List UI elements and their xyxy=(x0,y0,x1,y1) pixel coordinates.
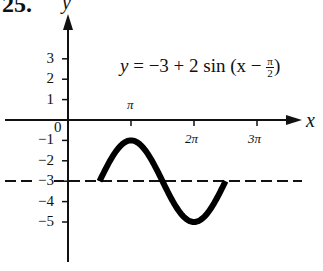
y-tick-label: 3 xyxy=(24,51,54,66)
fraction-denominator: 2 xyxy=(266,68,274,79)
equation-equals: = xyxy=(133,55,148,76)
y-axis-arrow-icon xyxy=(63,14,73,30)
y-tick-label: −2 xyxy=(24,153,54,168)
x-axis-label: x xyxy=(306,110,315,130)
x-tick-label: 3π xyxy=(248,132,261,145)
origin-label: 0 xyxy=(54,120,62,135)
y-tick-label: −5 xyxy=(24,214,54,229)
x-axis-arrow-icon xyxy=(286,115,302,125)
y-tick-label: −1 xyxy=(24,132,54,147)
equation-lhs: y xyxy=(120,55,128,76)
x-tick-label: π xyxy=(127,98,134,111)
y-axis-label: y xyxy=(62,0,71,12)
y-tick-label: 2 xyxy=(24,71,54,86)
equation-rhs-prefix: −3 + 2 sin (x − xyxy=(149,55,262,76)
equation-label: y = −3 + 2 sin (x − π 2 ) xyxy=(120,55,280,79)
y-tick-label: 1 xyxy=(24,92,54,107)
y-tick-label: −3 xyxy=(32,173,54,188)
equation-rhs-suffix: ) xyxy=(274,55,280,76)
equation-fraction: π 2 xyxy=(266,56,274,79)
x-tick-label: 2π xyxy=(185,132,198,145)
y-tick-label: −4 xyxy=(24,194,54,209)
